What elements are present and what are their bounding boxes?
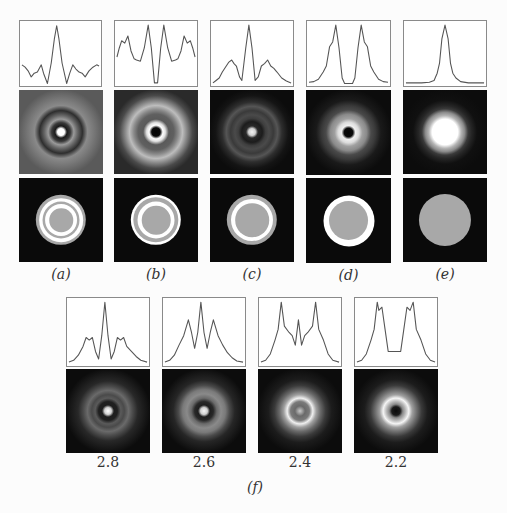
pupil-mask-a xyxy=(19,178,103,262)
diffraction-image-f4 xyxy=(354,369,438,453)
parameter-value-f1: 2.8 xyxy=(66,454,150,470)
intensity-profile-curve xyxy=(211,21,293,86)
profile-plot-d xyxy=(306,20,391,87)
diffraction-image-f3 xyxy=(258,369,342,453)
intensity-field xyxy=(258,369,342,453)
mask-zone-2 xyxy=(235,203,269,237)
intensity-profile-curve xyxy=(115,21,197,86)
pupil-mask-b xyxy=(114,178,198,262)
intensity-field xyxy=(210,90,294,174)
mask-zone-4 xyxy=(49,208,73,232)
parameter-value-f4: 2.2 xyxy=(354,454,438,470)
intensity-profile-curve xyxy=(163,298,245,366)
diffraction-image-f2 xyxy=(162,369,246,453)
pupil-mask-e xyxy=(403,178,487,262)
pupil-mask-c xyxy=(210,178,294,262)
diffraction-image-b xyxy=(114,90,198,174)
intensity-profile-curve xyxy=(20,21,101,86)
profile-plot-f4 xyxy=(354,297,438,367)
mask-zone-0 xyxy=(419,194,471,246)
panel-label-e: (e) xyxy=(403,266,487,282)
panel-label-a: (a) xyxy=(19,266,103,282)
profile-plot-c xyxy=(210,20,294,87)
diffraction-image-c xyxy=(210,90,294,174)
intensity-field xyxy=(19,90,103,174)
intensity-field xyxy=(354,369,438,453)
parameter-value-f3: 2.4 xyxy=(258,454,342,470)
profile-plot-b xyxy=(114,20,198,87)
profile-plot-f3 xyxy=(258,297,342,367)
intensity-profile-curve xyxy=(355,298,437,366)
diffraction-image-e xyxy=(403,90,487,174)
intensity-profile-curve xyxy=(67,298,149,366)
intensity-field xyxy=(162,369,246,453)
profile-plot-f1 xyxy=(66,297,150,367)
diffraction-image-f1 xyxy=(66,369,150,453)
intensity-field xyxy=(403,90,487,174)
intensity-profile-curve xyxy=(259,298,341,366)
mask-zone-3 xyxy=(142,206,171,235)
intensity-field xyxy=(66,369,150,453)
panel-label-d: (d) xyxy=(306,267,391,283)
panel-label-f: (f) xyxy=(200,479,310,495)
profile-plot-a xyxy=(19,20,102,87)
intensity-profile-curve xyxy=(307,21,390,86)
diffraction-image-d xyxy=(306,90,391,175)
pupil-mask-d xyxy=(306,178,391,263)
profile-plot-f2 xyxy=(162,297,246,367)
mask-zone-1 xyxy=(329,201,369,241)
panel-label-c: (c) xyxy=(210,266,294,282)
diffraction-image-a xyxy=(19,90,103,174)
profile-plot-e xyxy=(403,20,487,87)
intensity-field xyxy=(306,90,391,175)
intensity-profile-curve xyxy=(404,21,486,86)
intensity-field xyxy=(114,90,198,174)
panel-label-b: (b) xyxy=(114,266,198,282)
parameter-value-f2: 2.6 xyxy=(162,454,246,470)
